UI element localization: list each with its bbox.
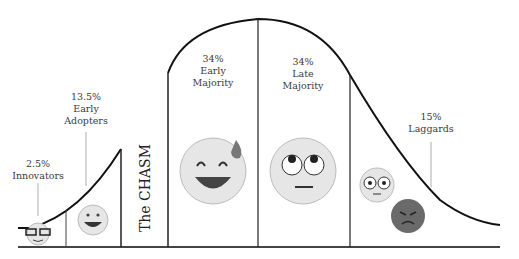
angry-face-icon — [391, 199, 425, 233]
grinning-face-icon — [78, 205, 108, 235]
eye-roll-face-icon — [270, 138, 336, 204]
late-majority-label: 34%LateMajority — [273, 56, 333, 92]
grinning-sweat-face-icon — [180, 138, 246, 204]
nerd-face-icon — [26, 223, 50, 245]
flushed-face-icon — [360, 168, 394, 202]
early-adopters-label: 13.5%EarlyAdopters — [56, 91, 116, 127]
chasm-label: The CHASM — [137, 144, 153, 232]
early-majority-label: 34%EarlyMajority — [183, 53, 243, 89]
innovators-label: 2.5%Innovators — [8, 158, 68, 182]
laggards-label: 15%Laggards — [401, 111, 461, 135]
